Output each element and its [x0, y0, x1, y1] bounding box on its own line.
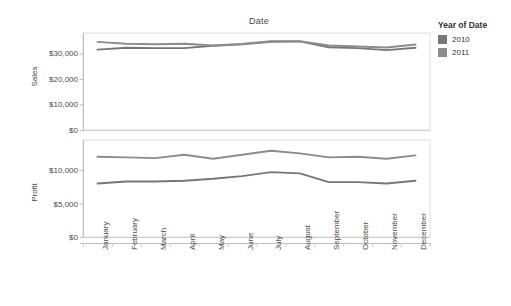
legend: Year of Date 2010 2011	[438, 20, 487, 61]
series-line-2010	[98, 172, 416, 183]
series-line-2011	[98, 151, 416, 159]
x-tick-label-august: August	[303, 225, 312, 250]
x-tick-label-february: February	[130, 218, 139, 250]
y-tick-label: $20,000	[20, 74, 78, 83]
x-tick-label-july: July	[274, 236, 283, 250]
legend-swatch-2010	[438, 35, 447, 44]
y-tick-label: $10,000	[20, 100, 78, 109]
legend-item-2010[interactable]: 2010	[438, 35, 487, 44]
legend-swatch-2011	[438, 48, 447, 57]
legend-item-2011[interactable]: 2011	[438, 48, 487, 57]
y-tick-label: $30,000	[20, 49, 78, 58]
legend-label-2011: 2011	[452, 48, 469, 57]
x-tick-label-november: November	[390, 213, 399, 250]
x-tick-label-october: October	[361, 222, 370, 250]
x-tick-label-december: December	[419, 213, 428, 250]
x-tick-label-september: September	[332, 211, 341, 250]
x-tick-label-june: June	[246, 233, 255, 250]
y-tick-label: $10,000	[20, 166, 78, 175]
x-tick-label-january: January	[101, 222, 110, 250]
legend-title: Year of Date	[438, 20, 487, 30]
series-line-2011	[98, 41, 416, 47]
plot-area	[0, 0, 511, 306]
chart-title: Date	[88, 16, 430, 26]
x-tick-label-april: April	[188, 234, 197, 250]
x-tick-label-march: March	[159, 228, 168, 250]
y-tick-label: $0	[20, 126, 78, 135]
chart-canvas: Date Sales Profit $0$10,000$20,000$30,00…	[0, 0, 511, 306]
legend-label-2010: 2010	[452, 35, 470, 44]
y-tick-label: $0	[20, 233, 78, 242]
x-tick-label-may: May	[217, 235, 226, 250]
y-tick-label: $5,000	[20, 199, 78, 208]
